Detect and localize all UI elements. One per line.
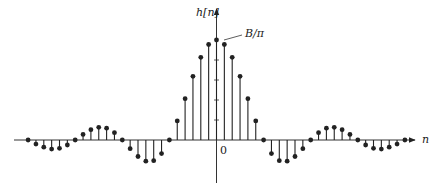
stem-point — [387, 145, 392, 150]
stem-point — [395, 142, 400, 147]
stem-point — [167, 138, 172, 143]
stem-point — [136, 154, 141, 159]
stem-point — [49, 147, 54, 152]
stem-point — [96, 125, 101, 130]
stem-point — [57, 146, 62, 151]
stem-point — [230, 55, 235, 60]
stem-point — [120, 138, 125, 143]
stem-point — [293, 154, 298, 159]
stem-point — [104, 126, 109, 131]
stem-point — [73, 138, 78, 143]
stem-point — [340, 127, 345, 132]
stem-point — [214, 38, 219, 43]
stem-point — [253, 119, 258, 124]
stem-point — [285, 159, 290, 164]
stem-point — [222, 42, 227, 47]
stem-point — [332, 125, 337, 130]
stem-point — [238, 74, 243, 79]
stem-point — [403, 138, 408, 143]
stem-point — [348, 132, 353, 137]
stem-point — [34, 142, 39, 147]
stem-point — [269, 151, 274, 156]
stem-point — [89, 127, 94, 132]
y-axis-label: h[n] — [196, 6, 219, 19]
stem-plot — [0, 0, 435, 190]
stem-point — [128, 146, 133, 151]
stem-point — [300, 146, 305, 151]
stem-point — [159, 151, 164, 156]
stem-point — [112, 130, 117, 135]
stem-point — [26, 138, 31, 143]
stem-point — [206, 42, 211, 47]
stem-point — [183, 96, 188, 101]
stem-point — [308, 138, 313, 143]
stem-point — [41, 145, 46, 150]
stem-point — [198, 55, 203, 60]
x-axis-label: n — [422, 133, 429, 146]
stem-point — [316, 130, 321, 135]
stem-point — [175, 119, 180, 124]
stem-point — [371, 146, 376, 151]
stem-point — [277, 158, 282, 163]
stem-point — [191, 74, 196, 79]
peak-leader-line — [224, 35, 242, 40]
stem-point — [81, 132, 86, 137]
stem-point — [151, 158, 156, 163]
stem-point — [379, 147, 384, 152]
stem-point — [363, 143, 368, 148]
stem-point — [355, 138, 360, 143]
origin-label: 0 — [220, 144, 227, 157]
peak-annotation: B/π — [245, 27, 264, 40]
stem-point — [324, 126, 329, 131]
stem-point — [261, 138, 266, 143]
stem-point — [143, 159, 148, 164]
stem-point — [65, 143, 70, 148]
stem-point — [246, 96, 251, 101]
